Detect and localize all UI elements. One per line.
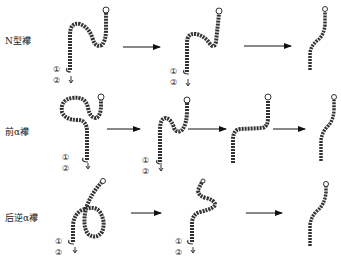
marker-1: ① [175,237,182,246]
row-n-loop [67,7,328,87]
marker-2: ② [62,164,69,173]
n-loop-step-1 [67,7,110,83]
row-label-n-loop: N型襻 [5,34,31,47]
n-loop-step-2 [184,8,222,86]
front-alpha-step-2 [157,97,190,171]
n-loop-step-3 [310,7,328,71]
row-label-reverse-alpha: 后逆α襻 [5,211,38,224]
loop-reduction-diagram [0,0,341,267]
marker-2: ② [142,167,149,176]
reverse-alpha-step-1 [69,179,106,254]
reverse-alpha-step-3 [310,182,329,247]
reverse-alpha-step-2 [188,179,216,253]
row-front-alpha-loop [62,94,337,171]
marker-2: ② [175,248,182,257]
row-label-front-alpha: 前α襻 [5,125,29,138]
marker-2: ② [55,248,62,257]
marker-1: ① [142,156,149,165]
front-alpha-step-4 [321,95,337,162]
marker-1: ① [55,237,62,246]
front-alpha-step-3 [233,94,271,163]
marker-2: ② [170,78,177,87]
marker-2: ② [53,76,60,85]
marker-1: ① [170,67,177,76]
marker-1: ① [53,65,60,74]
row-reverse-alpha-loop [69,179,329,254]
marker-1: ① [62,153,69,162]
